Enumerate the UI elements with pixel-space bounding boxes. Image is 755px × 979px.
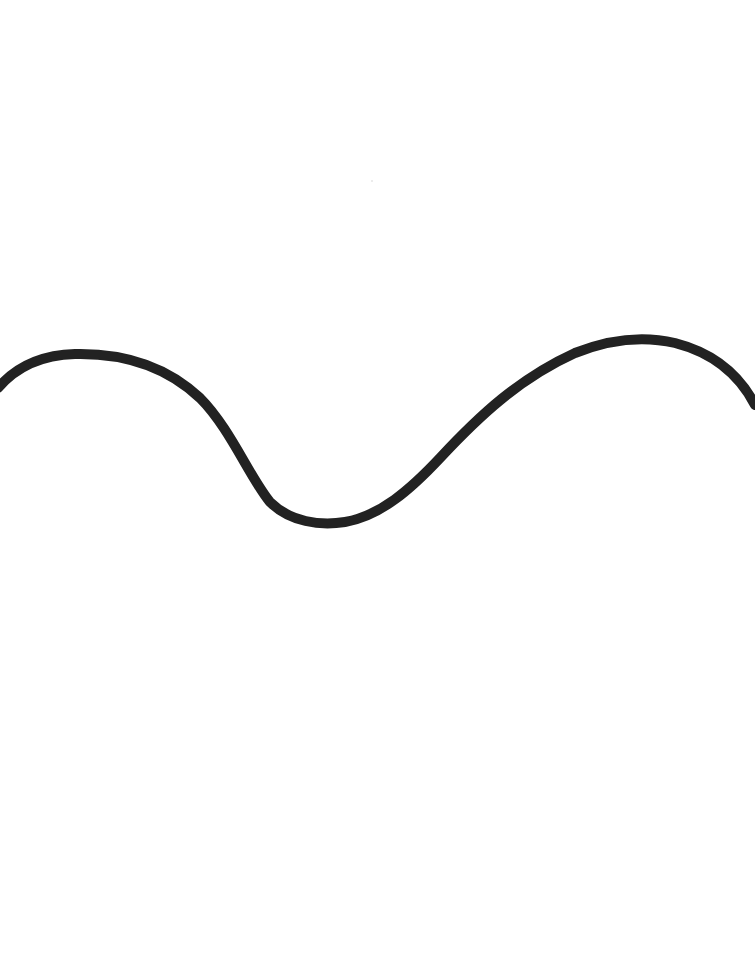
background	[0, 0, 755, 979]
speck	[371, 180, 373, 182]
drawing-canvas	[0, 0, 755, 979]
